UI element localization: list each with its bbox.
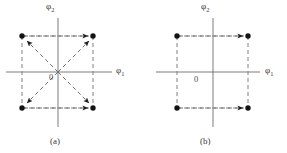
panel-b-x-axis-subscript: 1 [270,70,273,77]
panel-b-caption: (b) [200,136,211,146]
panel-a-origin-label: 0 [49,72,53,82]
panel-b-point-bottom-left [174,105,179,110]
panel-a-caption: (a) [50,136,60,146]
panel-b-y-axis-subscript: 2 [206,6,209,13]
panel-a-point-top-right [90,33,95,38]
panel-a-point-top-left [19,33,24,38]
panel-a-y-axis-subscript: 2 [51,6,54,13]
panel-a-y-axis-label: φ2 [46,1,54,13]
figure-container: φ2 φ1 0 (a) [0,0,287,153]
panel-a-x-axis-subscript: 1 [121,70,124,77]
panel-b-x-axis-label: φ1 [265,65,273,77]
panel-b-y-axis-label: φ2 [201,1,209,13]
panel-b-origin-label: 0 [194,74,198,84]
panel-a-point-bottom-right [90,105,95,110]
panel-b-point-top-right [245,33,250,38]
panel-a-point-bottom-left [19,105,24,110]
panel-a-arrow-origin-to-top-left [27,41,58,72]
panel-a-arrow-origin-to-top-right [58,41,89,72]
panel-a-x-axis-label: φ1 [116,65,124,77]
panel-a-arrow-origin-to-bottom-left [27,72,58,103]
panel-b-point-top-left [174,33,179,38]
panel-b-axes [156,18,260,127]
panel-a-arrow-origin-to-bottom-right [58,72,89,103]
panel-b-point-bottom-right [245,105,250,110]
